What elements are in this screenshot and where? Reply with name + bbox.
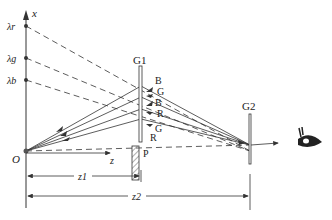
p-label: P <box>143 148 149 159</box>
beam-label: G <box>157 86 164 97</box>
lambda-r-label: λr <box>6 21 15 32</box>
origin-label: O <box>12 153 20 165</box>
grating-g1: G1 <box>133 54 146 142</box>
dimension-z2: z2 <box>28 191 248 202</box>
beam-label: R <box>157 108 164 119</box>
lambda-g-label: λg <box>6 53 16 64</box>
beam-labels: B G B R G R <box>150 75 164 143</box>
z2-label: z2 <box>131 191 141 202</box>
optics-diagram: x λr λg λb <box>0 0 332 220</box>
grating-g2: G2 <box>242 100 278 210</box>
lambda-b-label: λb <box>6 75 16 86</box>
g1-label: G1 <box>133 54 146 66</box>
plate-p: P <box>132 146 149 180</box>
g2-label: G2 <box>242 100 255 112</box>
beam-label: B <box>155 97 162 108</box>
beam-label: R <box>150 132 157 143</box>
z1-label: z1 <box>77 171 87 182</box>
diagram: x λr λg λb <box>0 0 332 220</box>
dimension-z1: z1 <box>28 170 141 182</box>
rays-o-to-g1 <box>26 86 141 151</box>
wavelength-points: λr λg λb <box>6 21 28 86</box>
z-axis-label: z <box>109 155 114 166</box>
beam-label: B <box>155 75 162 86</box>
x-axis-label: x <box>31 7 37 19</box>
x-axis: x <box>23 7 37 208</box>
eye-icon <box>298 127 322 147</box>
origin-and-z-axis: O z <box>12 149 114 167</box>
